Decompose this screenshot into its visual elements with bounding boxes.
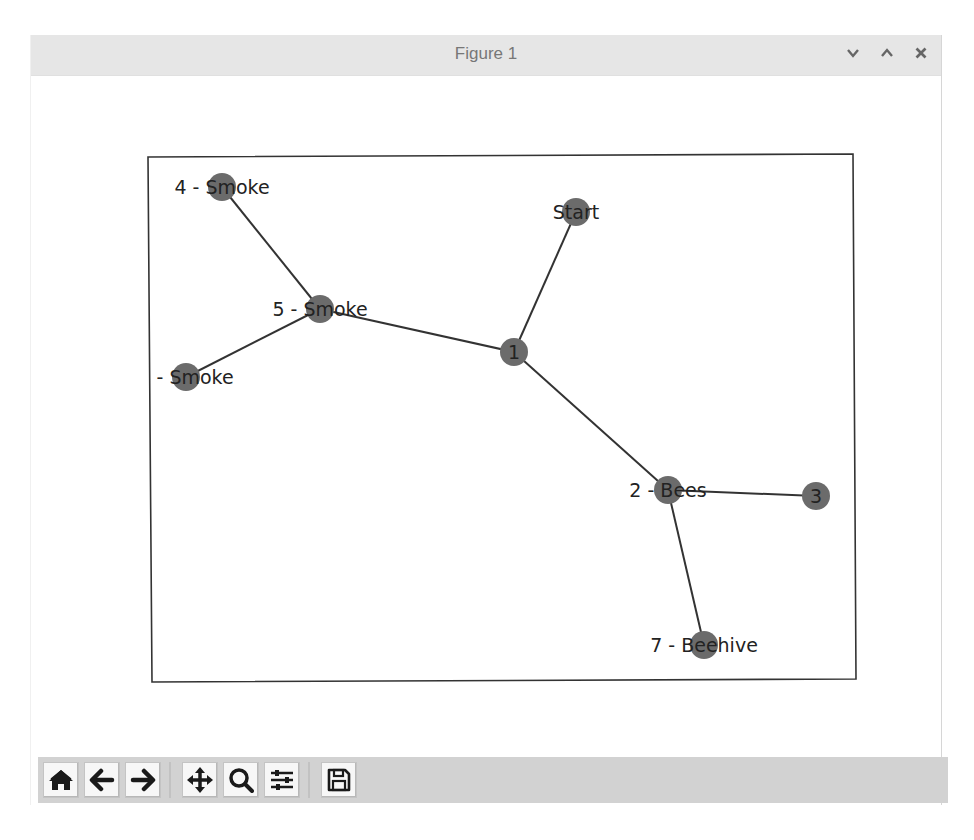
title-bar[interactable]: Figure 1: [31, 35, 941, 76]
arrow-left-icon: [89, 768, 115, 792]
maximize-button[interactable]: [879, 43, 895, 63]
back-button[interactable]: [84, 762, 120, 798]
move-icon: [187, 767, 213, 793]
navigation-toolbar: [38, 757, 948, 803]
arrow-right-icon: [130, 768, 156, 792]
floppy-disk-icon: [326, 767, 352, 793]
chevron-down-icon: [847, 48, 859, 58]
figure-window: Figure 1: [30, 35, 942, 805]
home-icon: [48, 768, 74, 792]
minimize-button[interactable]: [845, 43, 861, 63]
toolbar-separator: [308, 762, 310, 798]
window-controls: [845, 43, 929, 63]
close-icon: [915, 47, 927, 59]
sliders-icon: [269, 767, 295, 793]
window-title: Figure 1: [31, 44, 941, 64]
chevron-up-icon: [881, 48, 893, 58]
home-button[interactable]: [43, 762, 79, 798]
close-button[interactable]: [913, 43, 929, 63]
magnifier-icon: [228, 767, 254, 793]
configure-subplots-button[interactable]: [264, 762, 300, 798]
pan-button[interactable]: [182, 762, 218, 798]
zoom-button[interactable]: [223, 762, 259, 798]
forward-button[interactable]: [125, 762, 161, 798]
toolbar-separator: [169, 762, 171, 798]
save-button[interactable]: [321, 762, 357, 798]
